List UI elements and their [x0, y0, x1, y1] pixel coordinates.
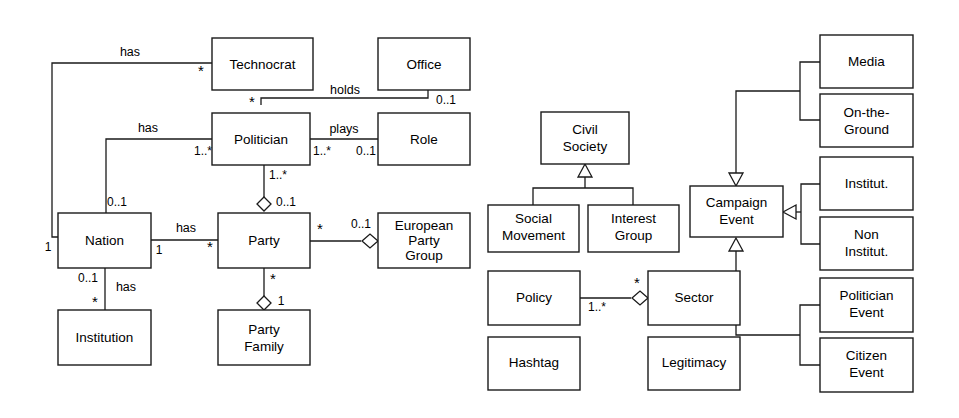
class-box-civil-society[interactable]: Civil Society [541, 112, 629, 164]
mult-politician-party-one-star: 1..* [269, 168, 287, 182]
edge-label-nation-has-politician: has [138, 121, 158, 135]
edge-campaign-top-bracket [800, 62, 820, 120]
class-label-party: Party [248, 233, 280, 248]
class-label-european-party-group-line1: European [395, 218, 454, 233]
class-box-institut[interactable]: Institut. [820, 157, 913, 210]
class-label-campaign-event-line1: Campaign [706, 195, 768, 210]
mult-politician-one-star: 1..* [194, 144, 212, 158]
class-label-social-movement-line2: Movement [502, 228, 565, 243]
aggregation-diamond-sector [632, 291, 648, 305]
edge-label-politician-holds-office: holds [330, 83, 360, 97]
class-label-european-party-group-line2: Party [408, 233, 440, 248]
generalization-triangle-campaign-top [729, 173, 743, 186]
mult-party-family-one: 1 [278, 294, 285, 308]
aggregation-diamond-party-politician [257, 197, 271, 211]
class-label-party-family-line1: Party [248, 322, 280, 337]
class-box-party-family[interactable]: Party Family [218, 310, 310, 365]
class-box-legitimacy[interactable]: Legitimacy [648, 337, 740, 390]
class-box-party[interactable]: Party [218, 213, 310, 268]
class-label-party-family-line2: Family [244, 339, 284, 354]
class-box-citizen-event[interactable]: Citizen Event [820, 338, 913, 392]
class-label-on-the-ground-line1: On-the- [844, 105, 890, 120]
class-box-technocrat[interactable]: Technocrat [212, 38, 313, 90]
aggregation-diamond-party-family [257, 296, 271, 310]
edge-label-nation-has-technocrat: has [120, 45, 140, 59]
mult-party-star-bottom: * [270, 270, 276, 287]
class-label-on-the-ground-line2: Ground [844, 122, 889, 137]
class-label-non-institut-line2: Institut. [845, 244, 889, 259]
class-label-office: Office [406, 57, 441, 72]
mult-nation-zero-one-top: 0..1 [107, 195, 127, 209]
class-box-on-the-ground[interactable]: On-the- Ground [820, 94, 913, 147]
class-label-technocrat: Technocrat [229, 57, 295, 72]
class-label-non-institut-line1: Non [854, 227, 879, 242]
edge-nation-has-technocrat [52, 63, 212, 237]
mult-role-zero-one: 0..1 [356, 144, 376, 158]
class-label-politician: Politician [234, 132, 288, 147]
class-label-citizen-event-line1: Citizen [846, 348, 887, 363]
edge-campaign-bottom-bracket [800, 305, 820, 365]
class-box-media[interactable]: Media [820, 35, 913, 88]
class-label-civil-society-line1: Civil [572, 122, 598, 137]
class-label-interest-group-line1: Interest [611, 211, 656, 226]
class-label-institut: Institut. [845, 176, 889, 191]
edge-campaign-mid-bracket [801, 184, 820, 244]
class-label-media: Media [848, 54, 885, 69]
class-box-institution[interactable]: Institution [58, 310, 151, 365]
class-label-campaign-event-line2: Event [719, 212, 754, 227]
generalization-triangle-campaign-bottom [729, 238, 743, 251]
mult-party-star-left: * [207, 238, 213, 255]
mult-office-zero-one: 0..1 [436, 93, 456, 107]
class-label-social-movement-line1: Social [515, 211, 552, 226]
mult-nation-one-left: 1 [45, 240, 52, 254]
mult-politician-plays-one-star: 1..* [313, 144, 331, 158]
class-box-social-movement[interactable]: Social Movement [488, 205, 579, 252]
class-label-civil-society-line2: Society [563, 139, 608, 154]
mult-nation-zero-one-bottom: 0..1 [78, 271, 98, 285]
class-box-role[interactable]: Role [378, 113, 470, 165]
class-box-politician-event[interactable]: Politician Event [820, 278, 913, 332]
edge-label-nation-has-party: has [176, 221, 196, 235]
mult-sector-star: * [634, 274, 640, 291]
mult-party-zero-one-top: 0..1 [276, 195, 296, 209]
class-label-politician-event-line2: Event [849, 305, 884, 320]
class-label-european-party-group-line3: Group [405, 248, 443, 263]
class-box-policy[interactable]: Policy [488, 271, 580, 325]
class-box-hashtag[interactable]: Hashtag [488, 337, 580, 390]
class-label-politician-event-line1: Politician [839, 288, 893, 303]
class-box-campaign-event[interactable]: Campaign Event [690, 186, 783, 237]
class-box-interest-group[interactable]: Interest Group [588, 205, 679, 252]
class-label-institution: Institution [76, 330, 134, 345]
aggregation-diamond-european-party-group [362, 234, 378, 248]
class-box-nation[interactable]: Nation [58, 213, 151, 268]
class-box-non-institut[interactable]: Non Institut. [820, 217, 913, 270]
class-label-hashtag: Hashtag [509, 355, 559, 370]
edge-label-nation-has-institution: has [116, 280, 136, 294]
mult-party-star-right: * [317, 220, 323, 237]
edge-campaign-top-trunk [736, 91, 800, 174]
mult-politician-holds-star: * [249, 93, 255, 110]
uml-diagram-svg: Technocrat Office Politician Role Nation… [0, 0, 959, 418]
class-label-interest-group-line2: Group [615, 228, 653, 243]
edge-label-politician-plays-role: plays [329, 122, 358, 136]
mult-institution-star: * [92, 293, 98, 310]
class-label-nation: Nation [85, 233, 124, 248]
class-label-policy: Policy [516, 290, 552, 305]
mult-technocrat-star: * [198, 62, 204, 79]
mult-policy-one-star: 1..* [588, 300, 606, 314]
uml-diagram-canvas: Technocrat Office Politician Role Nation… [0, 0, 959, 418]
generalization-triangle-civil-society [578, 164, 592, 177]
edge-civil-society-generalization [533, 188, 633, 205]
class-box-european-party-group[interactable]: European Party Group [378, 213, 470, 268]
generalization-triangle-campaign-mid [783, 205, 796, 219]
class-label-citizen-event-line2: Event [849, 365, 884, 380]
class-box-office[interactable]: Office [378, 38, 470, 90]
class-box-politician[interactable]: Politician [212, 113, 310, 165]
mult-european-party-group-zero-one: 0..1 [351, 217, 371, 231]
mult-nation-party-one: 1 [156, 243, 163, 257]
class-box-sector[interactable]: Sector [648, 271, 740, 325]
class-label-sector: Sector [674, 290, 714, 305]
edge-campaign-bottom-trunk [736, 250, 800, 335]
class-label-legitimacy: Legitimacy [662, 355, 727, 370]
class-label-role: Role [410, 132, 438, 147]
